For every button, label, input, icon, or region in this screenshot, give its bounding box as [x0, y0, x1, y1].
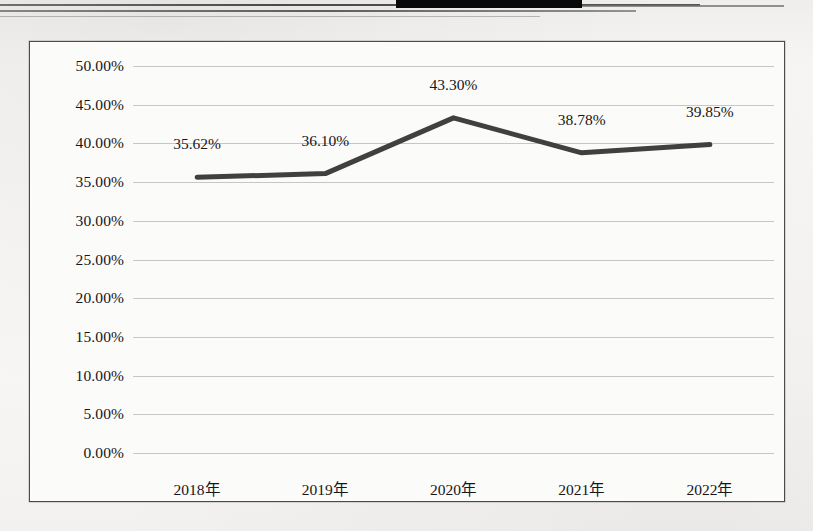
data-point-label: 38.78% [558, 111, 606, 129]
redaction-bar-icon [396, 0, 582, 8]
line-series [30, 42, 784, 501]
data-point-label: 35.62% [173, 135, 221, 153]
chart-plot-area: 50.00%45.00%40.00%35.00%30.00%25.00%20.0… [30, 42, 784, 501]
chart-container: 50.00%45.00%40.00%35.00%30.00%25.00%20.0… [29, 41, 785, 502]
header-rule-secondary [0, 10, 636, 12]
data-point-label: 43.30% [430, 76, 478, 94]
header-rule-right [578, 5, 784, 7]
series-line [197, 118, 710, 177]
data-point-label: 36.10% [301, 132, 349, 150]
header-rule-thin [0, 16, 540, 17]
data-point-label: 39.85% [686, 103, 734, 121]
